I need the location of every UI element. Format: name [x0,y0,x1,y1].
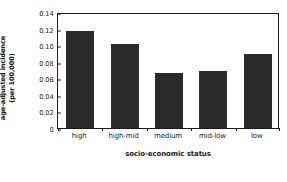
x-axis-tick-mark [102,128,103,131]
y-axis-tick-label: 0 [49,126,58,134]
bar-chart-figure: age-adjusted incidence (per 100,000) 00.… [0,0,287,182]
y-axis-tick-label: 0.08 [39,60,58,68]
y-axis-tick-mark [58,80,61,81]
bar-slot [199,14,227,128]
x-axis-tick-label: high [72,132,87,140]
y-axis-tick-label: 0.02 [39,109,58,117]
bar-slot [111,14,139,128]
x-axis-title: socio-economic status [57,150,279,158]
x-axis-tick-mark [191,128,192,131]
x-axis-tick-label: mid-low [199,132,226,140]
y-axis-tick-mark [58,63,61,64]
y-axis-tick-mark [58,113,61,114]
bar [199,71,227,128]
x-axis-tick-mark [147,128,148,131]
plot-area: 00.020.040.060.080.100.120.14 [57,13,279,129]
bar-slot [244,14,272,128]
y-axis-tick-label: 0.10 [39,43,58,51]
bar-slot [155,14,183,128]
y-axis-title-line-1: age-adjusted incidence [0,18,8,138]
y-axis-tick-label: 0.14 [39,10,58,18]
x-axis-tick-label: high-mid [108,132,138,140]
y-axis-tick-mark [58,30,61,31]
bar-series [58,14,278,128]
y-axis-tick-mark [58,14,61,15]
bar [155,73,183,128]
x-axis-tick-label: low [251,132,263,140]
y-axis-tick-label: 0.12 [39,27,58,35]
y-axis-tick-label: 0.04 [39,93,58,101]
y-axis-tick-label: 0.06 [39,76,58,84]
y-axis-title-line-2: (per 100,000) [8,18,17,138]
bar [66,31,94,128]
bar-slot [66,14,94,128]
x-axis-tick-mark [236,128,237,131]
y-axis-tick-mark [58,96,61,97]
x-axis-tick-mark [279,128,280,131]
bar [111,44,139,129]
y-axis-title: age-adjusted incidence (per 100,000) [0,18,23,138]
x-axis-tick-mark [58,128,59,131]
x-axis-tick-label: medium [154,132,182,140]
bar [244,54,272,128]
y-axis-tick-mark [58,47,61,48]
